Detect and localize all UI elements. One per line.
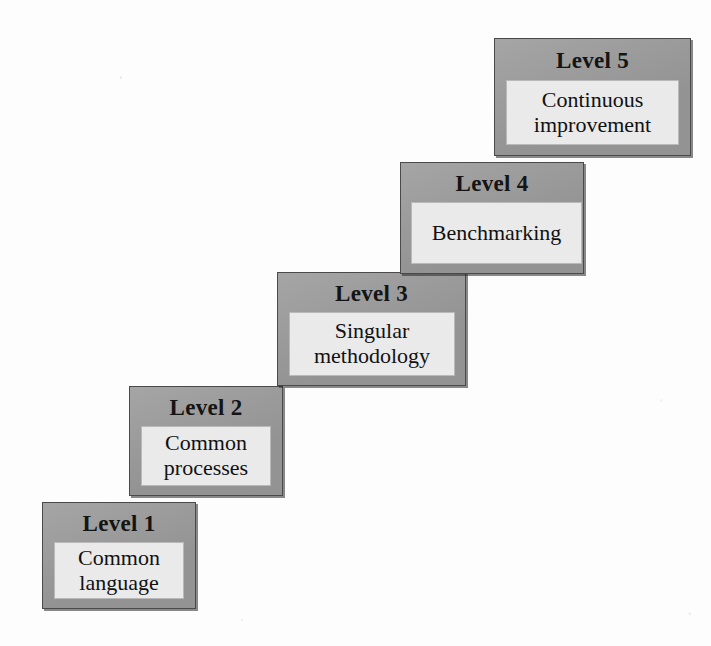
step-level-4-body: Benchmarking bbox=[411, 202, 582, 264]
step-level-2-header: Level 2 bbox=[130, 387, 282, 419]
step-level-5[interactable]: Level 5 Continuous improvement bbox=[494, 38, 691, 156]
step-level-3[interactable]: Level 3 Singular methodology bbox=[277, 272, 466, 386]
step-level-1-body: Common language bbox=[54, 542, 184, 599]
diagram-canvas: Level 1 Common language Level 2 Common p… bbox=[0, 0, 711, 646]
step-level-2[interactable]: Level 2 Common processes bbox=[129, 386, 283, 496]
step-level-3-header: Level 3 bbox=[278, 273, 465, 305]
step-level-4[interactable]: Level 4 Benchmarking bbox=[400, 162, 584, 274]
step-level-2-body: Common processes bbox=[141, 426, 271, 486]
step-level-1[interactable]: Level 1 Common language bbox=[42, 502, 196, 609]
step-level-5-header: Level 5 bbox=[495, 39, 690, 72]
step-level-5-body: Continuous improvement bbox=[506, 80, 679, 145]
step-level-3-body: Singular methodology bbox=[289, 312, 455, 376]
step-level-1-header: Level 1 bbox=[43, 503, 195, 535]
step-level-4-header: Level 4 bbox=[401, 163, 583, 195]
